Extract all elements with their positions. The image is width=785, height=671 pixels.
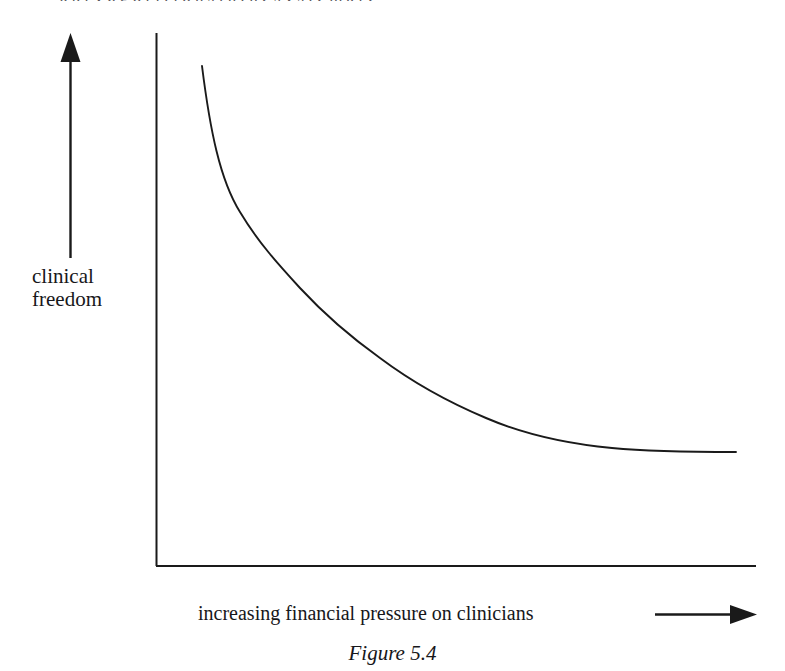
clinical-freedom-curve xyxy=(202,66,736,452)
figure-page: a p r y u g o r i t i o n s i n t h e s … xyxy=(0,0,785,671)
right-arrow-icon xyxy=(655,605,757,624)
figure-caption: Figure 5.4 xyxy=(0,641,785,666)
figure-container: clinical freedom increasing financial pr… xyxy=(0,0,785,671)
y-axis-label: clinical freedom xyxy=(32,265,102,311)
up-arrow-icon xyxy=(61,33,81,258)
chart-graphic xyxy=(0,0,785,671)
x-axis-label: increasing financial pressure on clinici… xyxy=(198,601,533,625)
